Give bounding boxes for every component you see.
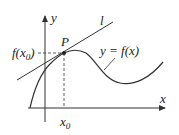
function-curve xyxy=(30,50,163,108)
point-p xyxy=(62,51,66,55)
curve-label-pointer xyxy=(104,58,115,70)
y-axis-label: y xyxy=(49,10,57,25)
tangent-diagram: y x l P y = f(x) f(x0) x0 xyxy=(0,0,179,135)
point-label: P xyxy=(60,34,69,49)
x-axis-label: x xyxy=(159,91,166,106)
diagram-canvas: y x l P y = f(x) f(x0) x0 xyxy=(0,0,179,135)
line-label: l xyxy=(100,13,104,28)
x0-label: x0 xyxy=(59,114,71,131)
fx0-label: f(x0) xyxy=(12,45,35,62)
curve-label: y = f(x) xyxy=(98,43,139,58)
